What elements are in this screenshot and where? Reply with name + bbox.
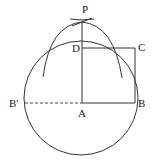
- label-c: C: [138, 41, 145, 53]
- label-a: A: [78, 107, 86, 119]
- label-p: P: [82, 3, 88, 15]
- label-d: D: [72, 42, 80, 54]
- label-b: B: [138, 97, 145, 109]
- geometry-diagram: P D C B' A B: [0, 0, 156, 166]
- label-b-prime: B': [9, 97, 18, 109]
- circle-centered-a: [24, 41, 138, 155]
